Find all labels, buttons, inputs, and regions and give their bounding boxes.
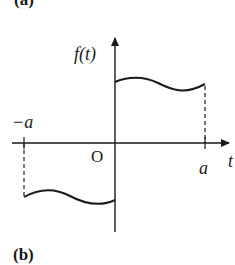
curve-positive (115, 78, 205, 90)
panel-label-b: (b) (13, 245, 34, 265)
neg-a-label: −a (12, 112, 33, 133)
curve-negative (24, 190, 115, 204)
origin-label: O (91, 147, 103, 167)
x-axis-label: t (228, 151, 233, 172)
function-plot (0, 0, 235, 265)
y-axis-label: f(t) (74, 44, 96, 65)
pos-a-label: a (199, 158, 208, 179)
